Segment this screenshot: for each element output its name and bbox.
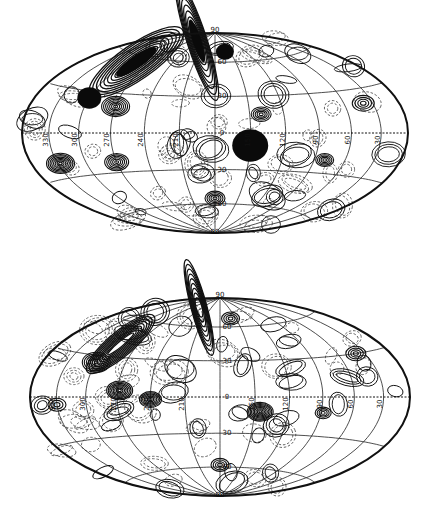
latitude-label: 60	[223, 323, 232, 331]
contour-loop	[88, 146, 99, 156]
longitude-label: 60	[344, 136, 352, 145]
contour-loop	[143, 458, 165, 469]
longitude-label: 150	[248, 397, 256, 410]
longitude-label: 120	[279, 133, 287, 146]
longitude-label: 300	[71, 133, 79, 146]
bottom-sky-map: 9090603003060330300270240210150120906030	[0, 258, 433, 516]
longitude-label: 240	[143, 397, 151, 410]
bottom-map-svg: 9090603003060330300270240210150120906030	[0, 258, 433, 516]
contour-loop	[69, 372, 79, 381]
latitude-label: 0	[220, 129, 224, 137]
contour-ring-spot	[47, 153, 75, 173]
longitude-label: 240	[137, 133, 145, 146]
contour-ring-spot	[251, 107, 271, 121]
parallel-line	[126, 311, 315, 327]
south-pole-label: 90	[216, 491, 225, 499]
longitude-label: 30	[374, 136, 382, 145]
contour-loop	[386, 384, 404, 399]
contour-loop	[352, 88, 384, 115]
parallel-line	[58, 433, 385, 446]
latitude-label: 0	[225, 393, 229, 401]
contour-loop	[284, 189, 306, 202]
contour-loop	[247, 166, 260, 181]
contour-loop	[81, 437, 101, 452]
parallel-line	[119, 204, 311, 220]
contour-loop	[263, 465, 278, 481]
contour-loop	[323, 99, 343, 118]
longitude-label: 60	[347, 400, 355, 409]
contour-loop	[70, 415, 101, 432]
contour-loop	[191, 420, 206, 437]
parallel-line	[50, 170, 382, 183]
top-sky-map: 9090603003060330300270240210150120906030	[0, 0, 433, 258]
contour-loop	[149, 358, 189, 386]
contour-loop	[262, 463, 279, 482]
contour-ring-spot	[316, 154, 334, 167]
contour-loop	[314, 195, 348, 224]
contour-loop	[335, 371, 359, 384]
top-map-svg: 9090603003060330300270240210150120906030	[0, 0, 433, 258]
north-pole-label: 90	[216, 291, 225, 299]
contour-loop	[326, 166, 335, 181]
contour-ring-spot	[352, 95, 374, 111]
contour-loop	[341, 328, 364, 348]
contour-loop	[140, 456, 168, 471]
north-pole-label: 90	[211, 26, 220, 34]
longitude-label: 270	[103, 133, 111, 146]
contour-loop	[285, 322, 299, 334]
contour-loop	[275, 332, 303, 351]
longitude-label: 330	[49, 397, 57, 410]
contour-loop	[36, 399, 49, 411]
latitude-label: 60	[223, 463, 232, 471]
contour-loop	[110, 189, 128, 206]
contour-loop	[331, 192, 354, 219]
contour-loop	[171, 99, 189, 107]
dense-contour-band	[179, 258, 220, 357]
contour-loop	[155, 362, 184, 383]
contour-loop	[173, 76, 202, 98]
contour-loop	[377, 146, 400, 162]
latitude-label: 60	[218, 58, 227, 66]
contour-loop	[339, 52, 368, 81]
south-pole-label: 90	[211, 228, 220, 236]
contour-loop	[35, 336, 75, 371]
contour-loop	[119, 206, 137, 221]
longitude-label: 90	[316, 400, 324, 409]
longitude-label: 30	[376, 400, 384, 409]
contour-loop	[345, 332, 360, 346]
contour-loop	[215, 335, 229, 353]
contour-loop	[334, 62, 363, 73]
contour-loop	[66, 369, 82, 382]
longitude-label: 210	[172, 133, 180, 146]
longitude-label: 120	[282, 397, 290, 410]
contour-loop	[148, 184, 168, 202]
latitude-label: 30	[218, 166, 227, 174]
longitude-label: 330	[42, 133, 50, 146]
contour-loop	[327, 103, 338, 114]
latitude-label: 30	[218, 92, 227, 100]
longitude-label: 270	[110, 397, 118, 410]
latitude-label: 30	[223, 357, 232, 365]
contour-loop	[210, 114, 228, 130]
solid-peak-spot	[77, 87, 101, 109]
longitude-label: 90	[312, 136, 320, 145]
latitude-label: 30	[223, 429, 232, 437]
contour-loop	[13, 102, 52, 136]
latitude-label: 60	[218, 200, 227, 208]
contour-loop	[338, 161, 355, 177]
contour-loop	[84, 143, 103, 160]
contour-loop	[118, 360, 135, 379]
longitude-label: 150	[244, 133, 252, 146]
longitude-label: 210	[178, 397, 186, 410]
contour-loop	[323, 346, 339, 366]
longitude-label: 300	[79, 397, 87, 410]
contour-ring-spot	[107, 381, 133, 400]
